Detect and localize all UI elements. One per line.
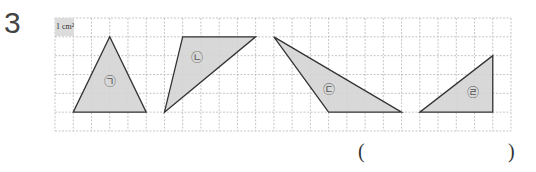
triangle-label: ㉣ bbox=[467, 86, 479, 100]
triangle-label: ㉡ bbox=[191, 51, 203, 65]
triangle-label: ㉢ bbox=[323, 83, 335, 97]
answer-close-paren: ) bbox=[508, 140, 515, 163]
unit-square-label: 1 cm² bbox=[55, 18, 74, 36]
answer-blank[interactable] bbox=[372, 142, 502, 164]
answer-open-paren: ( bbox=[358, 140, 365, 163]
triangle-label: ㉠ bbox=[104, 75, 116, 89]
